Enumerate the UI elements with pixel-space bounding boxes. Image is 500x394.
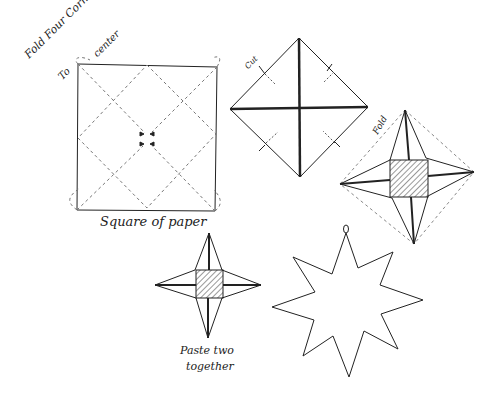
folded-star <box>340 110 474 244</box>
label-paste-two: Paste two <box>180 344 234 357</box>
label-square-of-paper: Square of paper <box>100 214 206 229</box>
label-together: together <box>186 360 234 373</box>
four-point-star <box>155 233 261 338</box>
diagram-canvas: Fold Four Corners To center Square of pa… <box>0 0 500 394</box>
square-of-paper <box>70 57 221 211</box>
eight-point-star <box>272 225 423 377</box>
